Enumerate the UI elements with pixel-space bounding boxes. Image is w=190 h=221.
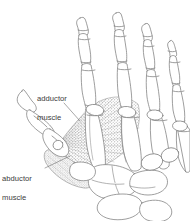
adductor-muscle-label: adductor muscle [37,85,67,122]
adductor-label-line1: adductor [37,94,67,103]
hand-anatomy-figure: adductor muscle abductor muscle [0,0,190,221]
adductor-label-line2: muscle [37,113,61,122]
abductor-label-line2: muscle [2,193,26,202]
abductor-label-line1: abductor [2,174,32,183]
abductor-muscle-label: abductor muscle [2,165,32,202]
ring-finger [142,23,170,169]
